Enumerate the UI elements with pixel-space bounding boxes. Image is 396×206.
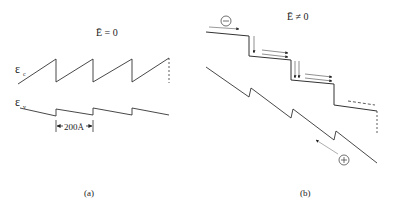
conduction-band-subscript: c [23, 71, 26, 77]
electron-arrow [209, 27, 239, 29]
panel-b: Ē ≠ 0 [206, 11, 377, 198]
valence-band-label: ε [15, 95, 20, 109]
band-diagram: Ē = 0 ε c ε v 200Å (a) Ē ≠ 0 [0, 0, 396, 206]
panel-b-title: Ē ≠ 0 [287, 11, 309, 22]
panel-b-caption: (b) [300, 188, 311, 198]
valence-band-subscript: v [23, 104, 26, 110]
hole [316, 140, 349, 165]
panel-a-title: Ē = 0 [96, 27, 118, 38]
conduction-band-label: ε [15, 62, 20, 76]
panel-a: Ē = 0 ε c ε v 200Å (a) [15, 27, 169, 198]
period-marker: 200Å [56, 120, 93, 132]
hole-arrow [316, 140, 338, 154]
conduction-band-b-dashed-upper [348, 101, 375, 105]
conduction-band-b [206, 32, 377, 111]
electron-transport-step1 [254, 36, 288, 57]
panel-a-caption: (a) [84, 188, 94, 198]
electron [209, 16, 239, 29]
electron-transport-step2 [295, 61, 332, 81]
valence-band-a [20, 108, 169, 116]
valence-band-b [206, 67, 377, 163]
period-label: 200Å [64, 122, 85, 132]
conduction-band-a [18, 58, 169, 84]
